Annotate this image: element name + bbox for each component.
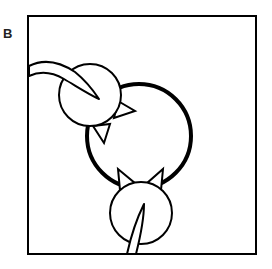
bottom-cat [110,169,172,254]
diagram-canvas [0,0,272,269]
